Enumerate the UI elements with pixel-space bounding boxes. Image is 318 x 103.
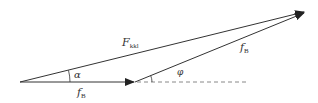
label-f-B-horizontal: fB — [76, 86, 86, 100]
label-phi: φ — [177, 67, 184, 77]
label-F-kkl: Fkkl — [121, 36, 139, 50]
angle-arc-alpha — [69, 70, 71, 82]
angle-arc-phi — [151, 76, 152, 82]
force-vector-diagram: Fkkl α fB fB φ — [0, 0, 318, 103]
label-f-B-inclined: fB — [239, 41, 249, 55]
label-alpha: α — [74, 69, 81, 80]
